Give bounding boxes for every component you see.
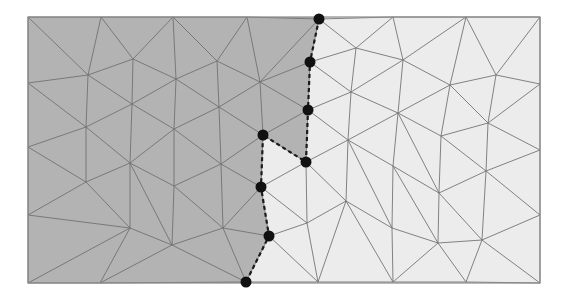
interface-node — [303, 105, 314, 116]
interface-node — [314, 14, 325, 25]
interface-node — [301, 157, 312, 168]
interface-node — [258, 130, 269, 141]
interface-node — [305, 57, 316, 68]
interface-node — [264, 231, 275, 242]
interface-node — [241, 277, 252, 288]
interface-node — [256, 182, 267, 193]
mesh-diagram: Triangular mesh partitioned into two sub… — [0, 0, 567, 301]
mesh-canvas — [0, 0, 567, 301]
